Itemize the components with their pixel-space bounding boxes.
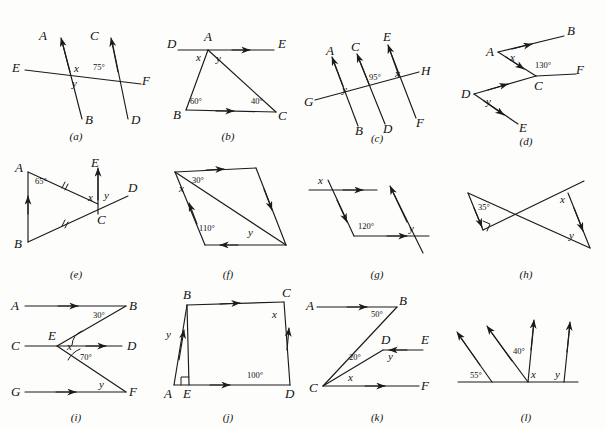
panel-l: 55° 40° x y (l): [450, 288, 605, 429]
panel-f-diagram: x y 30° 110° (f): [152, 148, 304, 288]
arrow-C: [357, 54, 369, 84]
label-D: D: [380, 332, 391, 347]
caption-g: (g): [371, 268, 384, 281]
label-C: C: [11, 338, 20, 353]
caption-d: (d): [520, 135, 533, 148]
label-A: A: [10, 298, 19, 313]
label-B: B: [183, 287, 191, 302]
line-AB: [174, 305, 187, 385]
label-E: E: [420, 332, 429, 347]
label-C: C: [278, 108, 287, 123]
arrow-right-close: [574, 208, 583, 231]
tick-BC: [62, 220, 68, 228]
label-y: y: [98, 378, 104, 390]
caption-f: (f): [223, 268, 234, 281]
label-x: x: [347, 371, 353, 383]
angle-35: 35°: [478, 202, 490, 212]
label-x: x: [178, 182, 184, 194]
arrow-ray-1: [457, 332, 480, 365]
label-A: A: [38, 28, 47, 43]
label-y: y: [341, 83, 347, 95]
arrow-C: [111, 38, 118, 72]
angle-20: 20°: [349, 352, 361, 362]
panel-i: A B C D E F G x y 30° 70° (i): [0, 288, 152, 429]
arrow-A: [61, 38, 70, 72]
label-E: E: [382, 29, 391, 44]
panel-j: B C A E D y x 100° (j): [152, 288, 304, 429]
label-y: y: [247, 226, 253, 238]
arrow-AB: [512, 44, 532, 49]
panel-c-diagram: A B C D E F G H y x 95° (c): [301, 0, 453, 145]
label-A: A: [325, 43, 334, 58]
label-B: B: [85, 112, 93, 127]
label-H: H: [420, 63, 431, 78]
panel-b: D E A B C x y 60° 40° (b): [152, 0, 304, 145]
label-x: x: [195, 51, 201, 63]
arrow-ray-3: [531, 320, 534, 350]
label-E: E: [47, 328, 56, 343]
label-D: D: [127, 180, 138, 195]
label-C: C: [309, 380, 318, 395]
label-x: x: [530, 368, 536, 380]
label-B: B: [173, 107, 181, 122]
panel-e-diagram: A B C D E x y 65° (e): [0, 148, 152, 288]
label-C: C: [282, 285, 291, 300]
label-x: x: [66, 340, 72, 352]
angle-60: 60°: [190, 96, 202, 106]
caption-c: (c): [371, 132, 384, 145]
label-y: y: [215, 52, 221, 64]
label-F: F: [415, 115, 425, 130]
panel-k-diagram: A B C D E F x y 50° 20° (k): [301, 288, 453, 429]
angle-95: 95°: [369, 72, 381, 82]
label-x: x: [87, 191, 93, 203]
label-B: B: [567, 23, 575, 38]
label-x: x: [271, 308, 277, 320]
label-F: F: [575, 62, 585, 77]
line-CF: [536, 74, 576, 76]
angle-40: 40°: [513, 346, 525, 356]
label-G: G: [11, 384, 21, 399]
label-B: B: [355, 123, 363, 138]
label-D: D: [382, 121, 393, 136]
angle-40: 40°: [251, 96, 263, 106]
label-y: y: [568, 229, 574, 241]
label-D: D: [166, 36, 177, 51]
panel-j-diagram: B C A E D y x 100° (j): [152, 288, 304, 429]
label-F: F: [420, 378, 430, 393]
caption-l: (l): [521, 411, 532, 424]
panel-g: x y 120° (g): [301, 148, 453, 288]
label-y: y: [103, 189, 109, 201]
angle-100: 100°: [247, 370, 263, 380]
label-y: y: [165, 328, 171, 340]
panel-e: A B C D E x y 65° (e): [0, 148, 152, 288]
label-B: B: [129, 298, 137, 313]
label-y: y: [71, 77, 77, 89]
label-x: x: [509, 51, 515, 63]
label-y: y: [387, 350, 393, 362]
angle-50: 50°: [371, 309, 383, 319]
label-E: E: [518, 120, 527, 135]
label-E: E: [11, 60, 20, 75]
panel-b-diagram: D E A B C x y 60° 40° (b): [152, 0, 304, 145]
caption-h: (h): [520, 268, 533, 281]
panel-h: 35° x y (h): [450, 148, 605, 288]
arc-x: [72, 331, 82, 345]
label-x: x: [559, 193, 565, 205]
label-C: C: [97, 212, 106, 227]
arrow-zig: [337, 200, 347, 222]
panel-h-diagram: 35° x y (h): [450, 148, 605, 288]
label-y: y: [485, 95, 491, 107]
label-E: E: [182, 386, 191, 401]
label-y: y: [408, 222, 414, 234]
panel-d-diagram: A B C D E F x y 130° (d): [450, 0, 605, 150]
panel-f: x y 30° 110° (f): [152, 148, 304, 288]
label-x: x: [394, 67, 400, 79]
label-A: A: [163, 386, 172, 401]
angle-70: 70°: [80, 352, 92, 362]
label-F: F: [128, 384, 138, 399]
line-CD: [284, 302, 290, 385]
label-B: B: [399, 293, 407, 308]
label-x: x: [73, 62, 79, 74]
arrow-ray-2: [487, 326, 512, 361]
arrow-A: [332, 57, 343, 86]
